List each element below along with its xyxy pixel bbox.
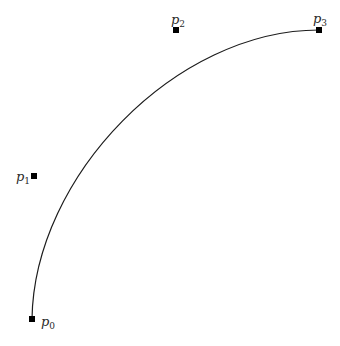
control-point-label-p3: p3 [313,11,327,28]
control-point-label-p2: p2 [171,12,185,29]
bezier-figure: p0p1p2p3 [0,0,340,346]
control-point-p2 [173,27,179,33]
bezier-curve [32,30,319,319]
bezier-curve-diagram: p0p1p2p3 [0,0,340,346]
control-point-label-p0: p0 [41,314,55,331]
control-point-p3 [316,27,322,33]
control-point-p1 [31,173,37,179]
control-point-p0 [29,316,35,322]
control-point-label-p1: p1 [16,169,30,186]
